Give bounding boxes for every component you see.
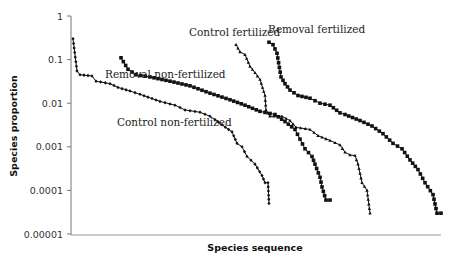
data-point-square — [320, 185, 324, 189]
data-point-diamond — [82, 73, 85, 77]
data-point-diamond — [154, 98, 157, 102]
data-point-square — [324, 198, 328, 202]
data-point-triangle — [367, 198, 370, 201]
data-point-square — [280, 117, 284, 121]
data-point-square — [288, 88, 292, 92]
data-point-diamond — [267, 198, 270, 202]
y-ticks: 10.10.010.0010.00010.00001 — [24, 11, 71, 240]
data-point-square — [388, 138, 392, 142]
data-point-triangle — [366, 193, 369, 196]
x-axis-title: Species sequence — [207, 242, 302, 253]
data-point-diamond — [188, 109, 191, 113]
series-label: Removal fertilized — [268, 23, 365, 35]
data-point-diamond — [267, 193, 270, 197]
data-point-diamond — [116, 86, 119, 90]
data-point-triangle — [260, 82, 263, 85]
data-point-diamond — [99, 80, 102, 84]
data-point-square — [429, 189, 433, 193]
data-point-square — [335, 109, 339, 113]
data-point-triangle — [360, 181, 363, 184]
data-point-triangle — [355, 158, 358, 161]
annotations: Removal non-fertilizedControl fertilized… — [105, 23, 365, 128]
data-point-diamond — [158, 100, 161, 104]
data-point-square — [276, 56, 280, 60]
data-point-triangle — [264, 103, 267, 106]
data-point-square — [303, 147, 307, 151]
data-point-square — [362, 121, 366, 125]
data-point-square — [188, 84, 192, 88]
data-point-diamond — [75, 65, 78, 69]
data-point-diamond — [267, 202, 270, 206]
data-point-square — [403, 151, 407, 155]
data-point-diamond — [267, 189, 270, 193]
data-point-triangle — [368, 211, 371, 214]
y-tick-label: 1 — [57, 11, 63, 22]
data-point-square — [317, 171, 321, 175]
data-point-square — [267, 40, 271, 44]
data-point-diamond — [86, 74, 89, 78]
data-point-square — [385, 135, 389, 139]
y-tick-label: 0.1 — [48, 54, 63, 65]
data-point-diamond — [72, 42, 75, 46]
data-point-square — [432, 197, 436, 201]
data-point-square — [423, 181, 427, 185]
data-point-square — [278, 66, 282, 70]
data-point-diamond — [74, 55, 77, 59]
data-point-triangle — [358, 172, 361, 175]
data-point-square — [271, 43, 275, 47]
data-point-square — [273, 47, 277, 51]
data-point-square — [347, 114, 351, 118]
data-point-triangle — [368, 207, 371, 210]
data-point-square — [192, 86, 196, 90]
data-point-square — [366, 122, 370, 126]
data-point-square — [411, 161, 415, 165]
data-point-square — [406, 154, 410, 158]
data-point-triangle — [245, 57, 248, 60]
data-point-diamond — [138, 93, 141, 97]
data-point-square — [433, 202, 437, 206]
data-point-square — [286, 85, 290, 89]
data-point-diamond — [183, 108, 186, 112]
data-point-triangle — [264, 99, 267, 102]
data-point-diamond — [267, 185, 270, 189]
data-point-square — [421, 177, 425, 181]
data-point-square — [204, 90, 208, 94]
data-point-square — [439, 211, 443, 215]
data-point-diamond — [112, 84, 115, 88]
data-point-square — [247, 105, 251, 109]
data-point-triangle — [359, 176, 362, 179]
data-point-square — [313, 99, 317, 103]
data-point-square — [216, 94, 220, 98]
data-point-square — [298, 137, 302, 141]
data-point-square — [243, 103, 247, 107]
rank-abundance-chart: 10.10.010.0010.00010.00001 Removal non-f… — [0, 0, 452, 265]
data-point-diamond — [150, 97, 153, 101]
data-point-diamond — [263, 181, 266, 185]
series-label: Control non-fertilized — [117, 116, 232, 128]
data-point-square — [312, 159, 316, 163]
data-point-square — [358, 119, 362, 123]
data-point-square — [370, 124, 374, 128]
data-point-triangle — [248, 65, 251, 68]
data-point-square — [301, 142, 305, 146]
data-point-square — [323, 102, 327, 106]
data-point-square — [239, 102, 243, 106]
data-point-square — [180, 82, 184, 86]
data-point-square — [184, 83, 188, 87]
data-point-square — [283, 120, 287, 124]
data-point-triangle — [234, 43, 237, 46]
data-point-square — [408, 158, 412, 162]
series-control-fertilized — [234, 43, 371, 215]
data-point-square — [416, 168, 420, 172]
data-point-diamond — [73, 51, 76, 55]
data-point-square — [381, 132, 385, 136]
data-point-square — [172, 80, 176, 84]
data-point-square — [296, 94, 300, 98]
data-point-diamond — [74, 60, 77, 64]
data-point-diamond — [266, 181, 269, 185]
data-point-square — [220, 95, 224, 99]
data-point-diamond — [71, 37, 74, 41]
data-point-diamond — [163, 101, 166, 105]
data-point-square — [318, 175, 322, 179]
data-point-diamond — [168, 102, 171, 106]
